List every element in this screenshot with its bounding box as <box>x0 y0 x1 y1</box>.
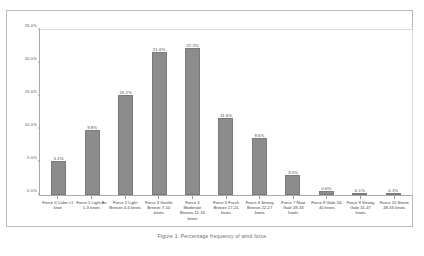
x-axis-ticks <box>39 196 413 199</box>
bar-value-label: 0.6% <box>321 186 331 191</box>
bar-slot: 21.6% <box>142 30 175 195</box>
x-axis-tick-slot <box>276 196 310 199</box>
x-axis-category-label: Force 10 Storm 48-55 knots <box>377 200 411 221</box>
bar-value-label: 15.2% <box>119 90 131 95</box>
chart-figure: 25.0%20.0%15.0%10.0%5.0%0.0% 5.1%9.8%15.… <box>0 0 424 256</box>
bar[interactable]: 5.1% <box>51 161 66 195</box>
bar[interactable]: 3.0% <box>285 175 300 195</box>
bar-slot: 5.1% <box>42 30 75 195</box>
bar-value-label: 9.8% <box>87 125 97 130</box>
x-axis-tick-slot <box>344 196 378 199</box>
x-axis-category-label: Force 5 Fresh Breeze 17-21 knots <box>209 200 243 221</box>
x-axis-category-label: Force 7 Near Gale 28-33 knots <box>276 200 310 221</box>
x-axis-category-label: Force 2 Light Breeze 4-6 knots <box>108 200 142 221</box>
x-axis-category-label: Force 8 Gale 34-40 knots <box>310 200 344 221</box>
x-axis-tick-slot <box>377 196 411 199</box>
x-axis-tick-slot <box>142 196 176 199</box>
y-axis-tick-label: 25.0% <box>25 23 37 28</box>
x-axis-category-label: Force 0 Calm <1 knot <box>41 200 75 221</box>
x-axis-labels: Force 0 Calm <1 knotForce 1 Light Air 1-… <box>39 200 413 221</box>
bar[interactable]: 0.1% <box>352 193 367 195</box>
bar[interactable]: 15.2% <box>118 95 133 195</box>
x-axis-tick-slot <box>75 196 109 199</box>
x-axis-tick-mark <box>57 196 58 199</box>
figure-caption: Figure 1: Percentage frequency of wind f… <box>0 233 424 239</box>
x-axis-category-label: Force 6 Strong Breeze 22-27 knots <box>243 200 277 221</box>
x-axis-tick-mark <box>394 196 395 199</box>
x-axis-category-label: Force 3 Gentle Breeze 7-10 knots <box>142 200 176 221</box>
bar-slot: 11.6% <box>209 30 242 195</box>
bar[interactable]: 0.6% <box>319 191 334 195</box>
x-axis-tick-mark <box>326 196 327 199</box>
plot-area: 25.0%20.0%15.0%10.0%5.0%0.0% 5.1%9.8%15.… <box>39 29 413 196</box>
x-axis-tick-mark <box>259 196 260 199</box>
bar-value-label: 21.6% <box>153 47 165 52</box>
x-axis-category-label: Force 4 Moderate Breeze 11-16 knots <box>176 200 210 221</box>
x-axis-tick-slot <box>176 196 210 199</box>
bar-slot: 0.6% <box>310 30 343 195</box>
x-axis-tick-mark <box>360 196 361 199</box>
y-axis-tick-label: 0.0% <box>27 188 37 193</box>
bar-slot: 8.6% <box>243 30 276 195</box>
y-axis-tick-label: 20.0% <box>25 56 37 61</box>
x-axis-tick-mark <box>125 196 126 199</box>
x-axis-category-label: Force 9 Strong Gale 41-47 knots <box>344 200 378 221</box>
x-axis-tick-slot <box>41 196 75 199</box>
bar-value-label: 11.6% <box>220 113 232 118</box>
x-axis-tick-mark <box>158 196 159 199</box>
x-axis-tick-slot <box>310 196 344 199</box>
bar-value-label: 8.6% <box>254 133 264 138</box>
x-axis-tick-mark <box>192 196 193 199</box>
x-axis-tick-mark <box>91 196 92 199</box>
y-axis-tick-label: 10.0% <box>25 122 37 127</box>
bar-slot: 0.1% <box>343 30 376 195</box>
bar[interactable]: 9.8% <box>85 130 100 195</box>
bar[interactable]: 11.6% <box>218 118 233 195</box>
bar-value-label: 3.0% <box>288 170 298 175</box>
chart-panel: 25.0%20.0%15.0%10.0%5.0%0.0% 5.1%9.8%15.… <box>6 10 413 227</box>
bar-slot: 9.8% <box>75 30 108 195</box>
bar[interactable]: 8.6% <box>252 138 267 195</box>
x-axis-tick-mark <box>293 196 294 199</box>
x-axis-tick-slot <box>108 196 142 199</box>
bar-slot: 22.2% <box>176 30 209 195</box>
bar-value-label: 0.1% <box>388 188 398 193</box>
bar[interactable]: 22.2% <box>185 48 200 195</box>
bar-value-label: 22.2% <box>186 43 198 48</box>
bar-slot: 15.2% <box>109 30 142 195</box>
y-axis-tick-label: 15.0% <box>25 89 37 94</box>
bar[interactable]: 0.1% <box>386 193 401 195</box>
y-axis-tick-label: 5.0% <box>27 155 37 160</box>
bar-series: 5.1%9.8%15.2%21.6%22.2%11.6%8.6%3.0%0.6%… <box>40 30 412 195</box>
x-axis-tick-slot <box>209 196 243 199</box>
x-axis-tick-slot <box>243 196 277 199</box>
bar-value-label: 0.1% <box>355 188 365 193</box>
x-axis-tick-mark <box>226 196 227 199</box>
bar-value-label: 5.1% <box>54 156 64 161</box>
bar[interactable]: 21.6% <box>152 52 167 195</box>
bar-slot: 0.1% <box>377 30 410 195</box>
bar-slot: 3.0% <box>276 30 309 195</box>
x-axis-category-label: Force 1 Light Air 1-3 knots <box>75 200 109 221</box>
